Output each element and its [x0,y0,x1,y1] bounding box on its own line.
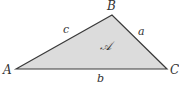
triangle-shape [16,15,167,69]
vertex-label-a: A [2,63,12,77]
vertex-label-c: C [170,63,179,77]
triangle-diagram: A B C c a b 𝒜 [0,0,179,86]
vertex-label-b: B [106,0,116,13]
side-label-a: a [138,25,145,38]
side-label-c: c [63,23,69,36]
side-label-b: b [97,72,104,85]
